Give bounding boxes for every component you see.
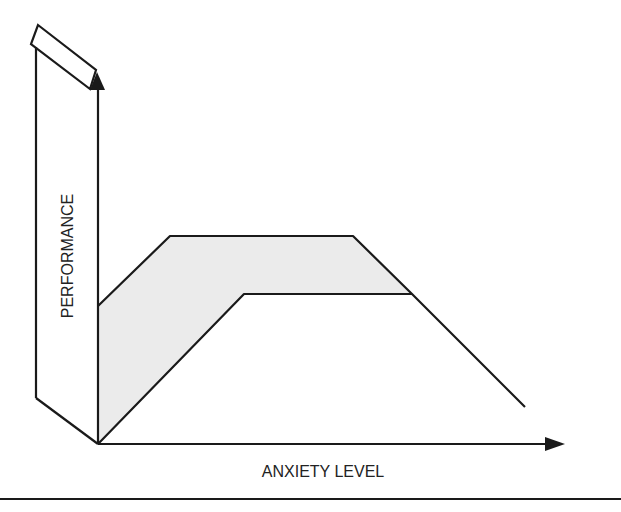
performance-anxiety-diagram: PERFORMANCE ANXIETY LEVEL <box>0 0 621 512</box>
x-axis-arrow-icon <box>545 437 565 451</box>
y-axis-label: PERFORMANCE <box>59 194 76 318</box>
y-axis-panel-cap <box>31 25 96 89</box>
performance-band <box>98 236 412 444</box>
x-axis-label: ANXIETY LEVEL <box>262 463 385 480</box>
